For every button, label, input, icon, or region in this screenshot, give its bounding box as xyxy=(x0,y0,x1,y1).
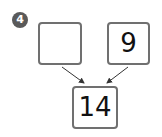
arrows-diagram xyxy=(0,0,162,137)
left-arrow-icon xyxy=(62,67,84,83)
right-arrow-icon xyxy=(107,67,128,83)
